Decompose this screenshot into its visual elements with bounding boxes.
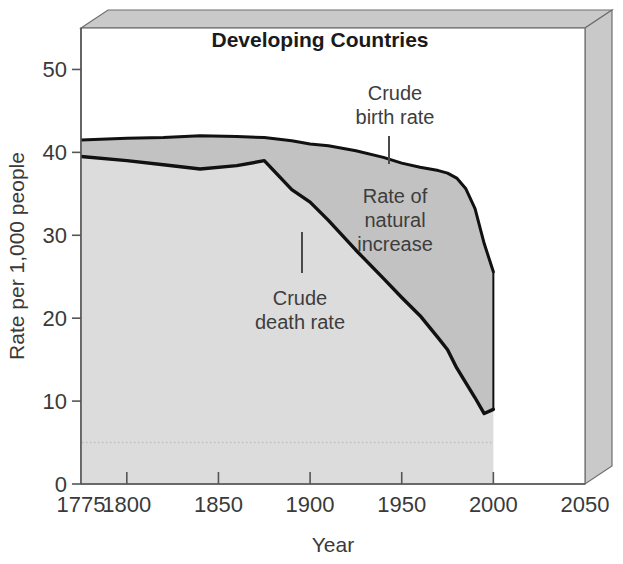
x-axis-tick-label: 1900 — [286, 492, 335, 517]
x-axis-tick-label: 1950 — [377, 492, 426, 517]
x-axis-title: Year — [312, 533, 354, 556]
x-axis-tick-label: 2000 — [469, 492, 518, 517]
annotation-crude-death-rate-line2: death rate — [255, 311, 345, 333]
box-top-bevel — [81, 10, 612, 28]
annotation-natural-increase-line1: Rate of — [363, 185, 428, 207]
y-axis-tick-label: 30 — [43, 223, 67, 248]
annotation-crude-birth-rate-line1: Crude — [368, 82, 422, 104]
annotation-crude-death-rate-line1: Crude — [273, 287, 327, 309]
annotation-natural-increase-line2: natural — [364, 209, 425, 231]
box-right-bevel — [585, 10, 612, 484]
y-axis-tick-label: 10 — [43, 389, 67, 414]
y-axis-tick-labels: 01020304050 — [43, 57, 67, 497]
x-axis-tick-label: 1800 — [102, 492, 151, 517]
y-axis-tick-label: 20 — [43, 306, 67, 331]
x-axis-tick-label: 2050 — [561, 492, 610, 517]
y-axis-tick-label: 40 — [43, 140, 67, 165]
y-axis-tick-label: 50 — [43, 57, 67, 82]
y-axis-title: Rate per 1,000 people — [5, 152, 28, 360]
chart-svg: 01020304050 1775180018501900195020002050… — [0, 0, 623, 564]
chart-title: Developing Countries — [211, 28, 428, 51]
annotation-crude-birth-rate-line2: birth rate — [356, 106, 435, 128]
x-axis-tick-label: 1775 — [57, 492, 106, 517]
chart-figure: 01020304050 1775180018501900195020002050… — [0, 0, 623, 564]
y-axis-ticks — [72, 69, 81, 484]
annotation-natural-increase-line3: increase — [357, 233, 433, 255]
x-axis-tick-label: 1850 — [194, 492, 243, 517]
x-axis-tick-labels: 1775180018501900195020002050 — [57, 492, 610, 517]
